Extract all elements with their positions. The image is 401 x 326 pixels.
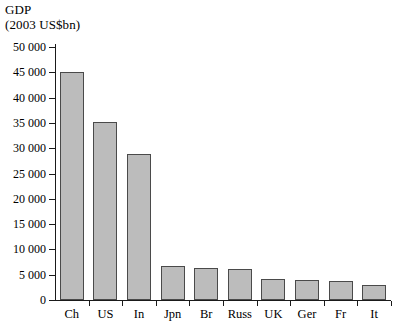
x-axis-label-russ: Russ (223, 307, 257, 321)
x-axis-label-ger: Ger (290, 307, 324, 321)
x-axis-tick (391, 301, 392, 306)
x-axis-tick (290, 301, 291, 306)
y-axis-tick (49, 98, 55, 99)
y-axis-tick-label: 30 000 (13, 142, 46, 154)
x-axis-label-jpn: Jpn (156, 307, 190, 321)
y-axis-tick-label: 15 000 (13, 218, 46, 230)
x-axis-label-in: In (122, 307, 156, 321)
y-axis-tick (49, 199, 55, 200)
y-axis-tick (49, 123, 55, 124)
y-axis-tick-label: 20 000 (13, 193, 46, 205)
bar-russ (228, 269, 252, 300)
x-axis-label-br: Br (189, 307, 223, 321)
x-axis-tick (89, 301, 90, 306)
y-axis-tick-label: 35 000 (13, 117, 46, 129)
x-axis-label-uk: UK (257, 307, 291, 321)
y-axis-tick-label: 25 000 (13, 168, 46, 180)
y-axis-tick (49, 224, 55, 225)
plot-area: 05 00010 00015 00020 00025 00030 00035 0… (0, 0, 401, 326)
x-axis-label-fr: Fr (324, 307, 358, 321)
chart-screenshot: GDP (2003 US$bn) 05 00010 00015 00020 00… (0, 0, 401, 326)
bar-br (194, 268, 218, 300)
bar-uk (261, 279, 285, 300)
y-axis-tick-label: 5 000 (19, 269, 46, 281)
y-axis-line (55, 44, 56, 301)
y-axis-tick (49, 148, 55, 149)
y-axis-tick (49, 275, 55, 276)
x-axis-tick (156, 301, 157, 306)
x-axis-tick (223, 301, 224, 306)
y-axis-tick-label: 50 000 (13, 41, 46, 53)
bar-ger (295, 280, 319, 300)
bar-jpn (161, 266, 185, 300)
y-axis-tick-label: 40 000 (13, 92, 46, 104)
y-axis-tick (49, 249, 55, 250)
y-axis-tick-label: 0 (40, 294, 46, 306)
bar-it (362, 285, 386, 300)
y-axis-tick-label: 45 000 (13, 66, 46, 78)
y-axis-tick (49, 174, 55, 175)
x-axis-tick (189, 301, 190, 306)
x-axis-label-it: It (357, 307, 391, 321)
x-axis-tick (357, 301, 358, 306)
x-axis-label-us: US (89, 307, 123, 321)
x-axis-tick (324, 301, 325, 306)
bar-fr (329, 281, 353, 300)
y-axis-tick (49, 300, 55, 301)
bar-ch (60, 72, 84, 300)
y-axis-tick (49, 72, 55, 73)
x-axis-tick (257, 301, 258, 306)
y-axis-tick (49, 47, 55, 48)
x-axis-tick (122, 301, 123, 306)
y-axis-tick-label: 10 000 (13, 243, 46, 255)
bar-in (127, 154, 151, 300)
bar-us (93, 122, 117, 300)
x-axis-label-ch: Ch (55, 307, 89, 321)
